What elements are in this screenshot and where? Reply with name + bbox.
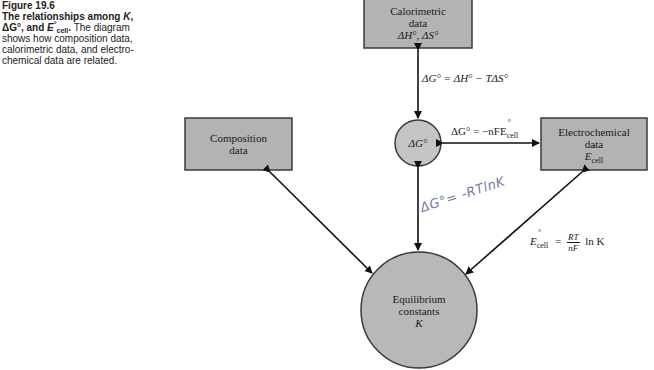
equation-nernst: E°cell = RTnF ln K — [530, 232, 605, 253]
diagram-canvas — [0, 0, 654, 370]
arrow-composition-equilibrium — [270, 172, 372, 273]
equation-gibbs-enthalpy: ΔG° = ΔH° − TΔS° — [422, 72, 508, 84]
composition-label: Composition data — [185, 132, 292, 156]
equilibrium-label: Equilibrium constants K — [361, 293, 477, 329]
electrochemical-label: Electrochemical data E°cell — [541, 126, 647, 162]
equation-gibbs-cell: ΔG° = −nFE°cell — [451, 125, 518, 137]
calorimetric-label: Calorimetric data ΔH°, ΔS° — [364, 5, 472, 41]
delta-g-label: ΔG° — [395, 137, 441, 149]
